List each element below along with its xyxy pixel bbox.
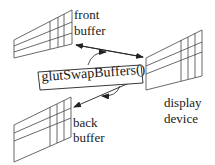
back-buffer-grid	[14, 97, 71, 162]
front-display-arrow	[76, 45, 143, 57]
front-buffer-grid	[14, 10, 72, 58]
display-device-label: display	[164, 96, 202, 110]
front-buffer-label-2: buffer	[74, 24, 106, 38]
diagram-canvas	[0, 0, 215, 165]
front-buffer-label: front	[74, 8, 99, 22]
display-device-grid	[146, 30, 202, 90]
display-device-label-2: device	[164, 112, 198, 126]
back-buffer-label-2: buffer	[73, 131, 105, 145]
back-buffer-label: back	[73, 116, 98, 130]
